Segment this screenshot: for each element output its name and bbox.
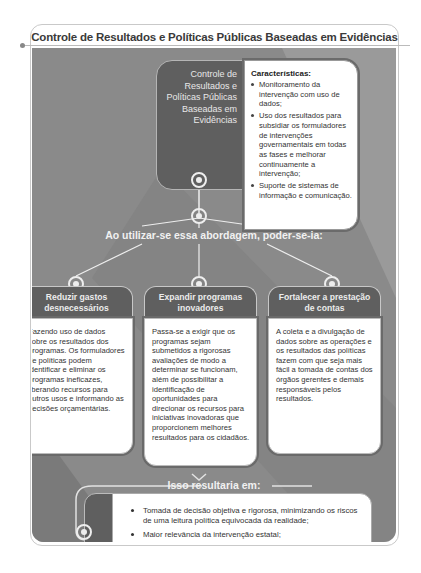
result-list: Tomada de decisão objetiva e rigorosa, m… bbox=[113, 494, 371, 542]
column-reduce-spending: Reduzir gastos desnecessários Fazendo us… bbox=[32, 286, 133, 454]
characteristics-list: Monitoramento da intervenção com uso de … bbox=[245, 80, 357, 200]
hub-line: Baseadas em bbox=[157, 104, 237, 116]
column-body: Fazendo uso de dados sobre os resultados… bbox=[32, 318, 133, 454]
column-accountability: Fortalecer a prestação de contas A colet… bbox=[268, 286, 381, 454]
hub-box: Controle de Resultados e Políticas Públi… bbox=[156, 60, 244, 190]
column-heading: Expandir programas inovadores bbox=[144, 286, 257, 318]
column-body: A coleta e a divulgação de dados sobre a… bbox=[268, 318, 381, 454]
node-ring-icon bbox=[191, 172, 207, 188]
hub-line: Resultados e bbox=[157, 81, 237, 93]
characteristics-box: Características: Monitoramento da interv… bbox=[244, 60, 358, 230]
characteristics-title: Características: bbox=[251, 69, 357, 78]
hub-line: Evidências bbox=[157, 115, 237, 127]
rule-dot-icon bbox=[20, 43, 25, 48]
approach-label: Ao utilizar-se essa abordagem, poder-se-… bbox=[32, 229, 396, 241]
diagram-panel: Controle de Resultados e Políticas Públi… bbox=[32, 48, 396, 542]
column-body: Passa-se a exigir que os programas sejam… bbox=[144, 318, 257, 466]
node-ring-icon bbox=[76, 524, 92, 540]
hub-line: Controle de bbox=[157, 69, 237, 81]
result-box: Tomada de decisão objetiva e rigorosa, m… bbox=[112, 493, 372, 542]
list-item: Maior relevância da intervenção estatal; bbox=[131, 530, 361, 540]
hub-label: Controle de Resultados e Políticas Públi… bbox=[157, 69, 237, 127]
title-rule bbox=[20, 45, 410, 46]
column-expand-programs: Expandir programas inovadores Passa-se a… bbox=[144, 286, 257, 466]
hub-line: Políticas Públicas bbox=[157, 92, 237, 104]
column-heading: Reduzir gastos desnecessários bbox=[32, 286, 133, 318]
result-title: Isso resultaria em: bbox=[32, 479, 396, 491]
list-item: Monitoramento da intervenção com uso de … bbox=[251, 80, 353, 109]
page-title: Controle de Resultados e Políticas Públi… bbox=[31, 31, 398, 43]
node-ring-icon bbox=[191, 208, 207, 224]
list-item: Uso dos resultados para subsidiar os for… bbox=[251, 111, 353, 179]
column-heading: Fortalecer a prestação de contas bbox=[268, 286, 381, 318]
list-item: Tomada de decisão objetiva e rigorosa, m… bbox=[131, 506, 361, 526]
list-item: Suporte de sistemas de informação e comu… bbox=[251, 181, 353, 200]
